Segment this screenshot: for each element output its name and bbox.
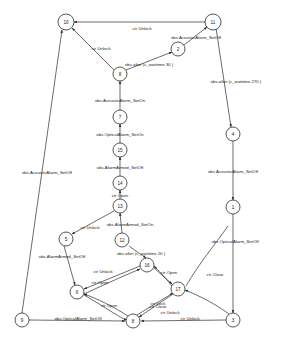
edge-label-acoustic-on: obs.AcousticAlarm_SetOn — [95, 98, 146, 103]
edge-label-close-2: ctr Close — [150, 304, 168, 309]
node-16[interactable]: 16 — [140, 258, 154, 272]
node-7-label: 7 — [119, 115, 122, 120]
edge-label-unlock-4: ctr Unlock — [93, 269, 113, 274]
node-2-label: 2 — [177, 47, 180, 52]
node-17[interactable]: 17 — [171, 282, 185, 296]
edge-11-to-4 — [216, 28, 231, 127]
edge-label-acoustic-off-2: obs.AcousticAlarm_SetOff — [22, 170, 73, 175]
node-1[interactable]: 1 — [226, 200, 240, 214]
edge-label-wait30: obs.after (c_waittime 30 ) — [125, 62, 174, 67]
edge-label-unlock-2: ctr Unlock — [91, 46, 111, 51]
graph-canvas: 10 11 2 8 7 15 — [0, 0, 286, 348]
node-6[interactable]: 6 — [70, 285, 84, 299]
edge-label-unlock-6: ctr Unlock — [180, 316, 200, 321]
node-1-label: 1 — [232, 205, 235, 210]
edge-label-layer: ctr Unlock obs.AcousticAlarm_SetOff ctr … — [22, 26, 262, 321]
edge-label-armed-off-1: obs.AlarmArmed_SetOff — [97, 165, 144, 170]
node-4[interactable]: 4 — [226, 127, 240, 141]
edge-label-close-1: ctr Close — [207, 272, 225, 277]
edge-label-acoustic-off-1: obs.AcousticAlarm_SetOff — [171, 35, 222, 40]
node-8-bottom[interactable]: 8 — [126, 314, 140, 328]
edge-label-optical-on: obs.OpticalAlarm_SetOn — [96, 132, 144, 137]
node-4-label: 4 — [232, 132, 235, 137]
node-13[interactable]: 13 — [113, 199, 127, 213]
node-11[interactable]: 11 — [205, 14, 221, 30]
node-8-bottom-label: 8 — [132, 319, 135, 324]
node-11-label: 11 — [211, 20, 216, 25]
edge-label-unlock-3: ctr Unlock — [80, 225, 100, 230]
edge-label-open-1: ctr Open — [112, 193, 129, 198]
node-14[interactable]: 14 — [113, 176, 127, 190]
edge-label-acoustic-off-3: obs.AcousticAlarm_SetOff — [208, 169, 259, 174]
node-9[interactable]: 9 — [15, 313, 29, 327]
node-8[interactable]: 8 — [113, 67, 127, 81]
node-6-label: 6 — [76, 290, 79, 295]
node-12[interactable]: 12 — [115, 233, 129, 247]
edge-label-unlock-5: ctr Unlock — [160, 310, 180, 315]
node-16-label: 16 — [144, 263, 150, 268]
state-machine-diagram: 10 11 2 8 7 15 — [0, 0, 286, 348]
node-10[interactable]: 10 — [58, 14, 74, 30]
node-8-label: 8 — [119, 72, 122, 77]
node-7[interactable]: 7 — [113, 110, 127, 124]
edge-label-wait270: obs.after (c_waittime 270 ) — [211, 79, 262, 84]
edge-label-optical-off-1: obs.OpticalAlarm_SetOff — [211, 239, 259, 244]
node-15[interactable]: 15 — [113, 143, 127, 157]
node-5-label: 5 — [65, 237, 68, 242]
edge-label-armed-on: obs.AlarmArmed_SetOn — [107, 222, 154, 227]
edge-label-wait20: obs.after (c_waittime 20 ) — [117, 251, 166, 256]
node-10-label: 10 — [63, 20, 69, 25]
edge-label-open-2: ctr Open — [161, 270, 178, 275]
node-3[interactable]: 3 — [226, 313, 240, 327]
edge-label-open-3: ctr Open — [92, 280, 109, 285]
edge-17-to-upper-right — [186, 226, 228, 286]
node-2[interactable]: 2 — [171, 42, 185, 56]
node-5[interactable]: 5 — [59, 232, 73, 246]
node-15-label: 15 — [117, 148, 123, 153]
edge-label-armed-off-2: obs.AlarmArmed_SetOff — [39, 254, 86, 259]
edge-3-to-17 — [185, 290, 229, 314]
edge-label-unlock-top: ctr Unlock — [132, 26, 152, 31]
edge-label-optical-off-2: obs.OpticalAlarm_SetOff — [54, 316, 102, 321]
node-12-label: 12 — [119, 238, 125, 243]
node-17-label: 17 — [175, 287, 181, 292]
edge-5-to-6 — [64, 246, 75, 285]
node-3-label: 3 — [232, 318, 235, 323]
node-13-label: 13 — [117, 204, 123, 209]
edge-label-open-4: ctr Open — [101, 303, 118, 308]
node-14-label: 14 — [117, 181, 123, 186]
node-9-label: 9 — [21, 318, 24, 323]
